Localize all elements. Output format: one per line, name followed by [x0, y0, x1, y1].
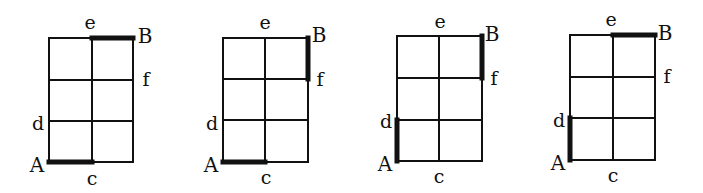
diagram-stage: ABcdefABcdefABcdefABcdef — [0, 0, 703, 193]
point-label-c: c — [434, 165, 445, 187]
point-label-f: f — [316, 68, 325, 90]
point-label-A: A — [29, 153, 45, 177]
point-label-f: f — [663, 65, 672, 87]
point-label-c: c — [87, 167, 98, 189]
point-label-d: d — [380, 110, 392, 132]
point-label-d: d — [32, 112, 44, 134]
grid-figure-2: ABcdef — [203, 11, 327, 188]
grid-figures-canvas: ABcdefABcdefABcdefABcdef — [0, 0, 703, 193]
point-label-B: B — [485, 22, 500, 46]
grid-figure-4: ABcdef — [550, 8, 673, 186]
point-label-B: B — [658, 21, 673, 45]
point-label-A: A — [550, 151, 566, 175]
point-label-e: e — [259, 11, 270, 33]
point-label-d: d — [206, 112, 218, 134]
point-label-e: e — [605, 8, 616, 30]
point-label-e: e — [84, 11, 95, 33]
point-label-e: e — [434, 10, 445, 32]
point-label-A: A — [203, 153, 219, 177]
point-label-B: B — [312, 23, 327, 47]
point-label-c: c — [261, 166, 272, 188]
point-label-A: A — [377, 152, 393, 176]
point-label-c: c — [608, 164, 619, 186]
point-label-B: B — [138, 24, 153, 48]
point-label-f: f — [142, 68, 151, 90]
point-label-f: f — [490, 67, 499, 89]
grid-figure-1: ABcdef — [29, 11, 153, 189]
point-label-d: d — [553, 109, 565, 131]
grid-figure-3: ABcdef — [377, 10, 500, 187]
